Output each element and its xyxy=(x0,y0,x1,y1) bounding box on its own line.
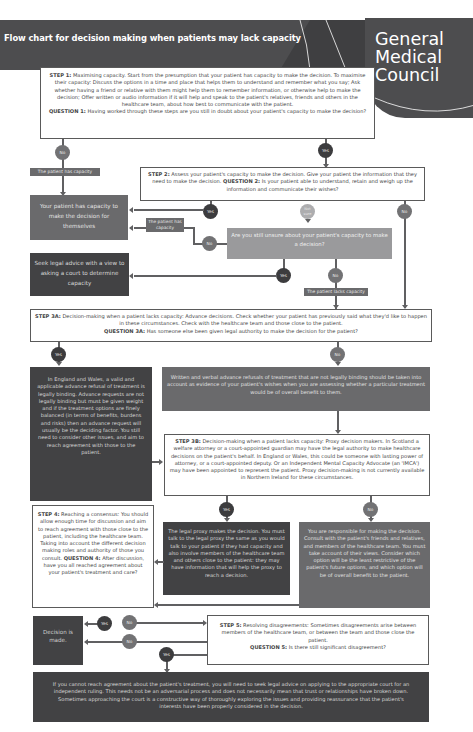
q2-yes-circle: Yes xyxy=(203,204,218,219)
q2-not-sure-circle: Not sure xyxy=(300,204,315,219)
tag-has-capacity-2-text: The patient has capacity xyxy=(148,219,182,230)
q3b-no-circle: No xyxy=(363,502,378,517)
decision-made-text: Decision is made. xyxy=(43,629,73,643)
step2-label: STEP 2: xyxy=(148,171,170,177)
logo-line-3: Council xyxy=(375,66,444,84)
proxy-text: The legal proxy makes the decision. You … xyxy=(168,528,285,578)
arrow-down xyxy=(56,362,62,366)
written-verbal-box: Written and verbal advance refusals of t… xyxy=(162,367,430,411)
step5-box: STEP 5: Resolving disagreements: Sometim… xyxy=(207,615,429,665)
page-title: Flow chart for decision making when pati… xyxy=(4,33,301,43)
q4-yes-circle: Yes xyxy=(97,616,112,631)
question1-text: Having worked through these steps are yo… xyxy=(87,108,366,114)
arrow-left xyxy=(84,639,88,645)
unsure-no2-circle: No xyxy=(328,268,343,283)
legal-advice-text: Seek legal advice with a view to asking … xyxy=(34,260,124,286)
step3a-box: STEP 3A: Decision-making when a patient … xyxy=(30,309,432,342)
unsure-yes-circle: Yes xyxy=(276,268,291,283)
connector xyxy=(158,604,299,606)
question3a-label: QUESTION 3A: xyxy=(104,328,145,334)
arrow-down xyxy=(305,219,311,223)
arrow-left xyxy=(129,207,133,213)
question1-label: QUESTION 1: xyxy=(49,108,86,114)
step1-text: Maximising capacity. Start from the pres… xyxy=(54,72,365,107)
q3a-yes-circle: Yes xyxy=(51,347,66,362)
has-capacity-text: Your patient has capacity to make the de… xyxy=(40,203,118,229)
q1-no-circle: No xyxy=(55,145,70,160)
question2-label: QUESTION 2: xyxy=(223,178,260,184)
court-ruling-box: If you cannot reach agreement about the … xyxy=(33,672,429,722)
q4-no-circle: No xyxy=(122,615,137,630)
connector xyxy=(193,227,195,244)
step4-box: STEP 4: Reaching a consensus: You should… xyxy=(32,505,154,608)
q3a-no-circle: No xyxy=(330,347,345,362)
step3b-text: Decision-making when a patient lacks cap… xyxy=(170,438,425,480)
arrow-left xyxy=(154,559,158,565)
question5-label: QUESTION 5: xyxy=(250,644,287,650)
connector xyxy=(335,259,337,309)
connector xyxy=(133,622,205,624)
step5-text: Resolving disagreements: Sometimes disag… xyxy=(222,622,417,643)
step2-box: STEP 2: Assess your patient's capacity t… xyxy=(140,167,425,201)
step3a-label: STEP 3A: xyxy=(35,313,61,319)
q2-no-circle: No xyxy=(397,204,412,219)
unsure-box: Are you still unsure about your patient'… xyxy=(227,228,392,259)
court-ruling-text: If you cannot reach agreement about the … xyxy=(53,681,410,709)
step4-text: Reaching a consensus: You should allow e… xyxy=(38,511,148,561)
responsible-box: You are responsible for making the decis… xyxy=(299,522,430,608)
written-verbal-text: Written and verbal advance refusals of t… xyxy=(167,374,425,395)
question5-text: Is there still significant disagreement? xyxy=(289,644,386,650)
tag-lacks-capacity: The patient lacks capacity xyxy=(304,288,368,296)
arrow-left xyxy=(129,225,133,231)
q5-yes-circle: Yes xyxy=(159,647,174,662)
tag-has-capacity-1: The patient has capacity xyxy=(30,168,100,176)
q1-yes-circle: Yes xyxy=(318,143,333,158)
step3b-box: STEP 3B: Decision-making when a patient … xyxy=(164,434,430,496)
arrow-left xyxy=(154,602,158,608)
arrow-left xyxy=(129,273,133,279)
connector xyxy=(134,227,146,229)
connector xyxy=(158,561,164,563)
q3b-yes-circle: Yes xyxy=(219,502,234,517)
decision-made-box: Decision is made. xyxy=(33,616,83,665)
advance-refusal-box: In England and Wales, a valid and applic… xyxy=(30,367,152,501)
tag-has-capacity-2: The patient has capacity xyxy=(146,218,184,232)
advance-refusal-text: In England and Wales, a valid and applic… xyxy=(37,376,145,455)
unsure-text: Are you still unsure about your patient'… xyxy=(231,232,387,247)
q5-no-circle: No xyxy=(122,634,137,649)
header-wave-decoration xyxy=(270,20,370,70)
connector xyxy=(134,209,204,211)
has-capacity-box: Your patient has capacity to make the de… xyxy=(30,195,128,240)
connector xyxy=(88,641,207,643)
arrow-right xyxy=(159,459,163,465)
step4-label: STEP 4: xyxy=(38,511,60,517)
arrow-down xyxy=(335,362,341,366)
legal-advice-box: Seek legal advice with a view to asking … xyxy=(30,253,129,296)
gmc-logo-text: General Medical Council xyxy=(375,30,444,84)
proxy-box: The legal proxy makes the decision. You … xyxy=(163,522,290,595)
question3a-text: Has someone else been given legal author… xyxy=(147,328,358,334)
logo-line-2: Medical xyxy=(375,48,444,66)
logo-line-1: General xyxy=(375,30,444,48)
question4-label: QUESTION 4: xyxy=(64,555,101,561)
step3a-text: Decision-making when a patient lacks cap… xyxy=(62,313,427,326)
responsible-text: You are responsible for making the decis… xyxy=(304,528,426,578)
step1-box: STEP 1: Maximising capacity. Start from … xyxy=(40,67,375,139)
step5-label: STEP 5: xyxy=(220,622,242,628)
step1-label: STEP 1: xyxy=(50,72,72,78)
unsure-no-circle: No xyxy=(202,236,217,251)
step3b-label: STEP 3B: xyxy=(175,438,201,444)
connector xyxy=(134,275,277,277)
arrow-left xyxy=(84,621,88,627)
